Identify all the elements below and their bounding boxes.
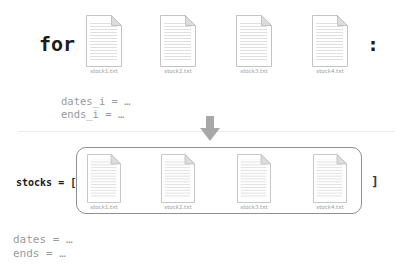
- list-file-stock1: stock1.txt: [68, 154, 140, 211]
- document-icon: [161, 154, 195, 203]
- document-icon: [312, 15, 348, 67]
- down-arrow-icon: [199, 116, 221, 142]
- list-file-stock4: stock4.txt: [294, 154, 366, 211]
- file-label: stock1.txt: [90, 205, 117, 211]
- loop-body-line-2: ends_i = …: [61, 108, 124, 122]
- file-label: stock3.txt: [240, 205, 267, 211]
- file-label: stock2.txt: [164, 205, 191, 211]
- result-line-ends: ends = …: [13, 247, 66, 261]
- closing-bracket: ]: [371, 175, 379, 188]
- loop-file-stock4: stock4.txt: [294, 15, 366, 75]
- document-icon: [236, 15, 272, 67]
- document-icon: [86, 15, 122, 67]
- diagram-canvas: for stock1.txt stock2.txt stock3.txt sto…: [0, 0, 402, 267]
- file-label: stock4.txt: [316, 205, 343, 211]
- document-icon: [87, 154, 121, 203]
- loop-colon: :: [367, 34, 379, 54]
- loop-body-line-1: dates_i = …: [61, 95, 131, 109]
- file-label: stock2.txt: [164, 69, 191, 75]
- loop-file-stock1: stock1.txt: [68, 15, 140, 75]
- loop-file-stock2: stock2.txt: [142, 15, 214, 75]
- file-label: stock3.txt: [240, 69, 267, 75]
- document-icon: [237, 154, 271, 203]
- list-file-stock3: stock3.txt: [218, 154, 290, 211]
- result-line-dates: dates = …: [13, 233, 73, 247]
- file-label: stock1.txt: [90, 69, 117, 75]
- file-label: stock4.txt: [316, 69, 343, 75]
- list-file-stock2: stock2.txt: [142, 154, 214, 211]
- loop-file-stock3: stock3.txt: [218, 15, 290, 75]
- document-icon: [313, 154, 347, 203]
- document-icon: [160, 15, 196, 67]
